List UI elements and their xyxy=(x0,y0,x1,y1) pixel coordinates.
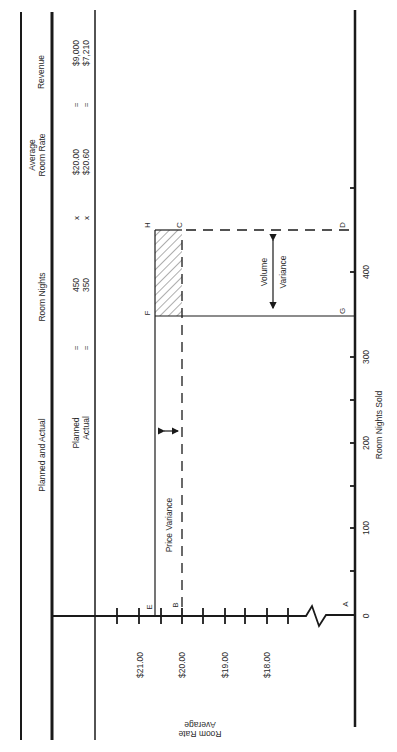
row-revenue: $7,210 xyxy=(81,40,91,66)
y-axis-tick-labels: $21.00 $20.00 $19.00 $18.00 xyxy=(135,652,272,678)
header-planned-and-actual: Planned and Actual xyxy=(37,418,47,491)
header-room-nights: Room Nights xyxy=(37,272,47,321)
row-eq2: = xyxy=(72,102,81,107)
point-B: B xyxy=(171,602,180,607)
header-average-room-rate-2: Room Rate xyxy=(37,133,47,176)
y-axis-title-line1: Average xyxy=(184,720,216,730)
tick-400: 400 xyxy=(361,265,371,279)
header-revenue: Revenue xyxy=(36,55,46,89)
point-E: E xyxy=(145,604,154,609)
point-H: H xyxy=(143,222,152,228)
volume-variance-label-1: Volume xyxy=(259,258,269,287)
row-rate: $20.60 xyxy=(81,149,91,175)
price-variance-label: Price Variance xyxy=(164,497,174,552)
hatched-region xyxy=(155,230,182,316)
row-label: Actual xyxy=(81,416,91,440)
point-C: C xyxy=(175,222,184,228)
point-G: G xyxy=(338,308,347,314)
row-times: x xyxy=(72,216,81,220)
tick-200: 200 xyxy=(361,436,371,450)
y-axis-title-line2: Room Rate xyxy=(178,729,221,739)
row-rate: $20.00 xyxy=(71,149,81,175)
point-A: A xyxy=(341,601,350,607)
x-axis-title: Room Nights Sold xyxy=(374,390,384,459)
tick-300: 300 xyxy=(361,350,371,364)
table-headers: Revenue Average Room Rate Room Nights Pl… xyxy=(27,55,47,492)
volume-variance-label-2: Variance xyxy=(278,255,288,288)
y-axis-title: Average Room Rate xyxy=(178,720,221,739)
row-eq2: = xyxy=(82,102,91,107)
point-F: F xyxy=(143,310,152,315)
tick-19: $19.00 xyxy=(220,652,230,678)
row-times: x xyxy=(82,216,91,220)
tick-21: $21.00 xyxy=(135,652,145,678)
row-eq: = xyxy=(82,345,91,350)
row-revenue: $9,000 xyxy=(71,40,81,66)
variance-chart: Revenue Average Room Rate Room Nights Pl… xyxy=(0,0,397,752)
table-row-actual: Actual = 350 x $20.60 = $7,210 xyxy=(81,40,91,440)
row-room-nights: 350 xyxy=(81,278,91,292)
tick-100: 100 xyxy=(361,521,371,535)
point-D: D xyxy=(338,222,347,228)
row-label: Planned xyxy=(71,417,81,448)
table-row-planned: Planned = 450 x $20.00 = $9,000 xyxy=(71,40,81,449)
x-axis-tick-labels: 0 100 200 300 400 xyxy=(361,265,371,619)
row-room-nights: 450 xyxy=(71,278,81,292)
row-eq: = xyxy=(72,345,81,350)
tick-0: 0 xyxy=(361,613,371,618)
tick-20: $20.00 xyxy=(177,652,187,678)
tick-18: $18.00 xyxy=(262,652,272,678)
header-average-room-rate-1: Average xyxy=(27,139,37,171)
